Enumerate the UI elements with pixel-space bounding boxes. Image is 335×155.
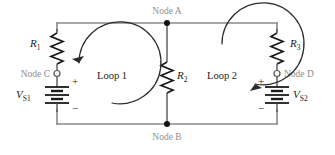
r3-label: R3: [289, 37, 301, 52]
loop-2-label: Loop 2: [207, 70, 237, 81]
vs1-plus-sign: +: [72, 75, 78, 87]
left-branch: R1 Node C + − VS1: [16, 29, 78, 114]
r2-label: R2: [176, 69, 188, 84]
circuit-canvas: R1 Node C + − VS1 R2 Node A Node B: [0, 0, 335, 155]
r3-resistor-zigzag: [271, 33, 283, 64]
vs2-label: VS2: [293, 88, 308, 103]
node-d-label: Node D: [284, 69, 314, 79]
loop-1-label: Loop 1: [97, 70, 127, 81]
right-branch: R3 Node D + − VS2: [258, 29, 314, 114]
node-c-terminal: [54, 71, 60, 77]
r1-label: R1: [29, 37, 41, 52]
node-b-dot: [164, 121, 170, 127]
node-a-dot: [164, 20, 170, 26]
vs2-minus-sign: −: [258, 102, 264, 114]
r2-resistor-zigzag: [161, 62, 173, 93]
loop-1-arrowhead: [72, 56, 84, 63]
node-a-label: Node A: [152, 6, 181, 16]
node-b-label: Node B: [152, 132, 181, 142]
vs1-label: VS1: [16, 88, 31, 103]
vs1-minus-sign: −: [72, 102, 78, 114]
loop-1-arrow: Loop 1: [72, 22, 161, 104]
node-c-label: Node C: [21, 69, 50, 79]
node-d-terminal: [274, 71, 280, 77]
circuit-diagram: R1 Node C + − VS1 R2 Node A Node B: [0, 0, 335, 155]
r1-resistor-zigzag: [51, 33, 63, 64]
loop-1-arc: [79, 22, 161, 104]
center-branch: R2 Node A Node B: [152, 6, 187, 142]
